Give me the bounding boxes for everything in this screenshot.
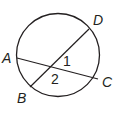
label-c: C [102,74,113,90]
label-d: D [93,12,103,28]
label-a: A [1,50,11,66]
label-b: B [17,90,26,106]
angle-2-label: 2 [51,71,59,87]
chord-bd [30,29,89,87]
circle-chords-diagram: A B C D 1 2 [0,0,119,114]
angle-1-label: 1 [63,53,71,69]
